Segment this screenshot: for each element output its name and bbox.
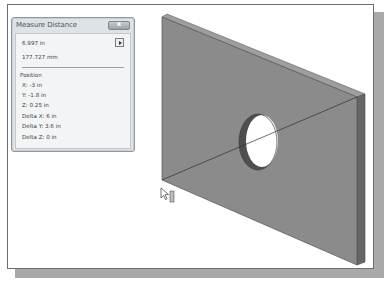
position-x: X: -3 in [22, 82, 42, 88]
expand-arrow-button[interactable] [115, 38, 124, 47]
plate-side-face [357, 94, 365, 265]
divider [22, 67, 124, 68]
dialog-title: Measure Distance [16, 21, 77, 29]
delta-x: Delta X: 6 in [22, 113, 57, 119]
cursor-tag-icon [170, 191, 174, 202]
close-button[interactable]: x [108, 21, 130, 30]
delta-z: Delta Z: 0 in [22, 134, 57, 140]
distance-mm: 177.727 mm [22, 54, 58, 60]
position-y: Y: -1.8 in [22, 92, 46, 98]
distance-inches: 6.997 in [22, 40, 45, 46]
position-header: Position [20, 72, 42, 78]
delta-y: Delta Y: 3.6 in [22, 123, 61, 129]
position-z: Z: 0.25 in [22, 102, 49, 108]
cursor-arrow-icon [161, 188, 169, 200]
dialog-body: 6.997 in 177.727 mm Position X: -3 in Y:… [15, 33, 131, 149]
close-icon: x [109, 20, 129, 28]
measure-distance-dialog[interactable]: Measure Distance x 6.997 in 177.727 mm P… [11, 17, 135, 152]
